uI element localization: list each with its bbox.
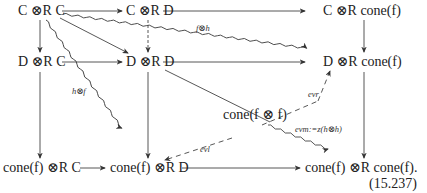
label-f-tensor-h: f⊗h [196,23,210,33]
node-cone-tensor-c: cone(f) ⊗R C [3,160,81,176]
label-ev-r: evr [308,89,319,99]
label-ev-m: evm:=z(h⊗h) [295,124,342,134]
node-c-tensor-c: C ⊗R C [18,3,65,19]
node-cone-tensor-d: cone(f) ⊗R D [110,160,189,176]
node-c-tensor-d: C ⊗R D [126,3,174,19]
node-c-tensor-cone: C ⊗R cone(f) [323,3,401,19]
node-cone-f-tensor-f: cone(f ⊗ f) [223,107,287,123]
equation-number: (15.237) [369,176,417,192]
node-cone-tensor-cone: cone(f) ⊗R cone(f). [305,160,417,176]
label-h-tensor-f: h⊗f [72,86,86,96]
node-d-tensor-c: D ⊗R C [18,54,66,70]
node-d-tensor-cone: D ⊗R cone(f) [323,54,402,70]
node-d-tensor-d: D ⊗R D [126,54,174,70]
label-ev-l: evl [200,144,210,154]
